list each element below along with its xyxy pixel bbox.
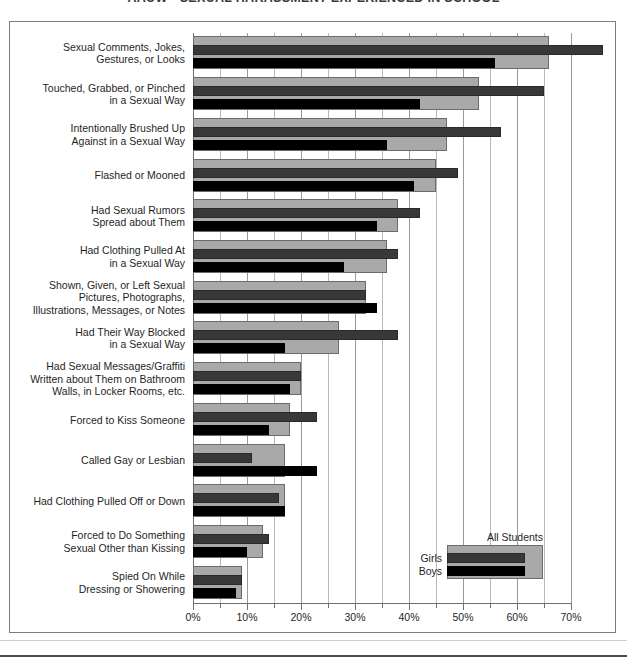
bar-girls [193, 371, 301, 381]
category-label: Forced to Kiss Someone [5, 414, 185, 427]
bar-girls [193, 493, 279, 503]
bar-group [193, 118, 571, 152]
bar-group [193, 159, 571, 193]
category-label-line: Spied On While [5, 570, 185, 583]
bar-girls [193, 534, 269, 544]
bar-group [193, 362, 571, 396]
x-tick-35pct [382, 603, 383, 608]
bar-group [193, 199, 571, 233]
x-tick-label: 70% [560, 611, 581, 623]
x-tick-60pct [517, 603, 518, 610]
category-label-line: Forced to Kiss Someone [5, 414, 185, 427]
legend-label-girls: Girls [420, 552, 442, 564]
bar-group [193, 240, 571, 274]
x-tick-30pct [355, 603, 356, 610]
bar-girls [193, 86, 544, 96]
category-label-line: Had Their Way Blocked [5, 326, 185, 339]
category-label-line: Sexual Comments, Jokes, [5, 41, 185, 54]
category-label-line: Sexual Other than Kissing [5, 542, 185, 555]
x-tick-5pct [220, 603, 221, 608]
bar-boys [193, 99, 420, 109]
category-label: Flashed or Mooned [5, 169, 185, 182]
category-label-line: Dressing or Showering [5, 583, 185, 596]
x-tick-label: 60% [506, 611, 527, 623]
x-tick-65pct [544, 603, 545, 608]
x-tick-20pct [301, 603, 302, 610]
category-label-line: in a Sexual Way [5, 338, 185, 351]
bar-boys [193, 506, 285, 516]
category-label-line: Had Sexual Messages/Graffiti [5, 360, 185, 373]
category-label-line: Called Gay or Lesbian [5, 454, 185, 467]
category-label-line: in a Sexual Way [5, 257, 185, 270]
bar-boys [193, 262, 344, 272]
category-label-line: Gestures, or Looks [5, 53, 185, 66]
bar-group [193, 321, 571, 355]
x-tick-label: 30% [344, 611, 365, 623]
bar-girls [193, 453, 252, 463]
bar-boys [193, 588, 236, 598]
category-label: Had Clothing Pulled Atin a Sexual Way [5, 244, 185, 269]
category-label-line: Had Clothing Pulled At [5, 244, 185, 257]
gridline-70pct [571, 33, 572, 603]
category-label-line: Spread about Them [5, 216, 185, 229]
plot-area [193, 33, 571, 603]
legend-label-boys: Boys [419, 565, 442, 577]
category-label-line: Flashed or Mooned [5, 169, 185, 182]
category-label-line: Shown, Given, or Left Sexual [5, 279, 185, 292]
bar-girls [193, 575, 242, 585]
x-tick-label: 10% [236, 611, 257, 623]
x-tick-55pct [490, 603, 491, 608]
category-label: Called Gay or Lesbian [5, 454, 185, 467]
bar-girls [193, 249, 398, 259]
bar-boys [193, 384, 290, 394]
category-label-line: Intentionally Brushed Up [5, 122, 185, 135]
x-tick-label: 40% [398, 611, 419, 623]
page-divider-light [0, 640, 627, 641]
category-label-line: Pictures, Photographs, [5, 291, 185, 304]
category-label: Had Sexual Messages/GraffitiWritten abou… [5, 360, 185, 398]
category-label-line: Forced to Do Something [5, 529, 185, 542]
bar-group [193, 281, 571, 315]
x-tick-label: 0% [185, 611, 200, 623]
bar-girls [193, 330, 398, 340]
category-label: Shown, Given, or Left SexualPictures, Ph… [5, 279, 185, 317]
category-label-line: Walls, in Locker Rooms, etc. [5, 385, 185, 398]
category-label-line: Illustrations, Messages, or Notes [5, 304, 185, 317]
category-label: Spied On WhileDressing or Showering [5, 570, 185, 595]
x-tick-25pct [328, 603, 329, 608]
page-divider [0, 655, 627, 657]
bar-boys [193, 466, 317, 476]
x-tick-70pct [571, 603, 572, 610]
bar-group [193, 403, 571, 437]
bar-girls [193, 208, 420, 218]
bar-boys [193, 303, 377, 313]
category-label: Had Their Way Blockedin a Sexual Way [5, 326, 185, 351]
category-label-line: Against in a Sexual Way [5, 135, 185, 148]
category-label-line: Had Clothing Pulled Off or Down [5, 495, 185, 508]
chart-title: AAUW • SEXUAL HARASSMENT EXPERIENCED IN … [0, 0, 627, 5]
x-tick-10pct [247, 603, 248, 610]
legend-swatch-boys [447, 566, 525, 576]
bar-girls [193, 127, 501, 137]
bar-boys [193, 140, 387, 150]
bar-group [193, 444, 571, 478]
bar-girls [193, 412, 317, 422]
category-label-line: Had Sexual Rumors [5, 204, 185, 217]
bar-group [193, 484, 571, 518]
category-label: Had Clothing Pulled Off or Down [5, 495, 185, 508]
category-label: Sexual Comments, Jokes,Gestures, or Look… [5, 41, 185, 66]
category-label-line: Touched, Grabbed, or Pinched [5, 82, 185, 95]
bar-boys [193, 343, 285, 353]
category-label: Had Sexual RumorsSpread about Them [5, 204, 185, 229]
legend-swatch-girls [447, 553, 525, 563]
x-tick-0pct [193, 603, 194, 610]
bar-boys [193, 221, 377, 231]
x-tick-15pct [274, 603, 275, 608]
bar-group [193, 77, 571, 111]
chart-legend [447, 545, 543, 579]
x-tick-45pct [436, 603, 437, 608]
bar-boys [193, 181, 414, 191]
category-label: Intentionally Brushed UpAgainst in a Sex… [5, 122, 185, 147]
bar-boys [193, 58, 495, 68]
category-label: Forced to Do SomethingSexual Other than … [5, 529, 185, 554]
